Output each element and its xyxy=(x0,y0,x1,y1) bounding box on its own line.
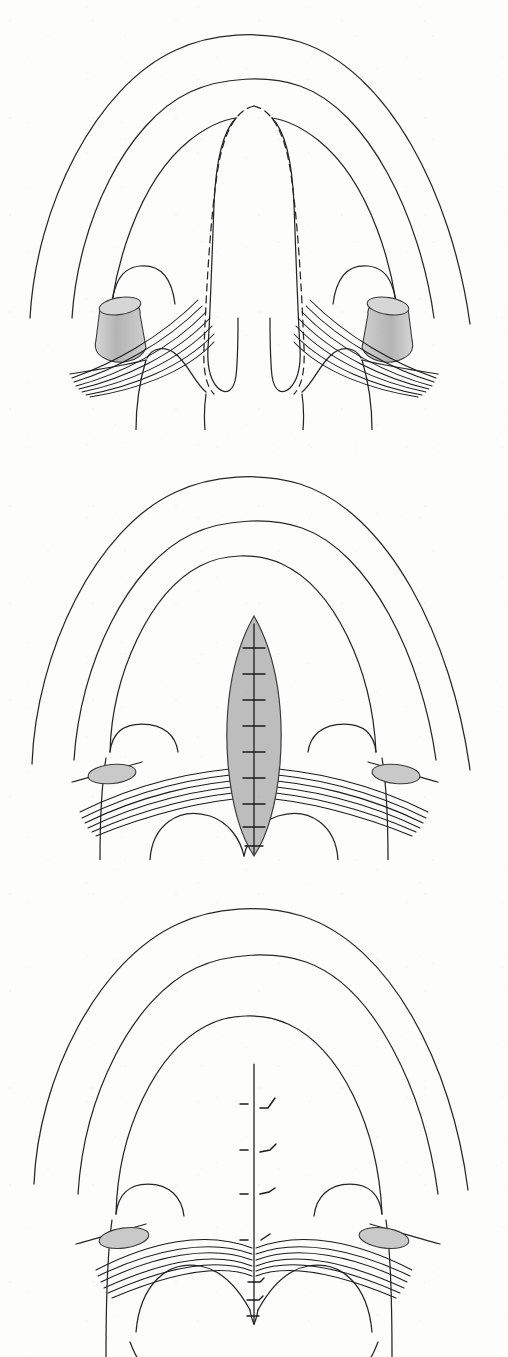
figure-panel-3 xyxy=(0,872,508,1357)
cleft-margin-right xyxy=(270,118,300,392)
running-head xyxy=(0,0,508,11)
knotted-suture-2 xyxy=(240,1144,276,1152)
hamulus-oval-right xyxy=(371,762,421,786)
soft-tissue-fold-right xyxy=(302,394,304,430)
panel-1-drawing xyxy=(0,18,508,430)
cleft-margin-left xyxy=(208,118,238,392)
figure-panel-1 xyxy=(0,18,508,430)
alveolar-ridge-arch xyxy=(78,955,438,1194)
alveolar-ridge-arch xyxy=(72,79,434,318)
velum-outer-left xyxy=(130,1342,137,1357)
hard-palate-lobe-left xyxy=(110,724,178,752)
posterior-border-left xyxy=(70,360,146,374)
knotted-suture-3 xyxy=(240,1188,275,1194)
figure-panel-2 xyxy=(0,452,508,860)
hamulus-right xyxy=(362,294,413,362)
velum-left xyxy=(136,1265,250,1332)
hard-palate-lobe-left xyxy=(116,1184,184,1216)
tonsillar-pillar-left xyxy=(136,360,146,430)
knotted-suture-1 xyxy=(240,1098,275,1108)
hamulus-oval-left xyxy=(98,1225,150,1252)
planned-incision-right xyxy=(254,106,304,394)
velum-right xyxy=(258,1265,372,1332)
tonsillar-pillar-right xyxy=(362,360,372,430)
posterior-border-right xyxy=(362,360,438,374)
soft-tissue-fold-left xyxy=(204,394,206,430)
planned-incision-left xyxy=(204,106,254,394)
hard-palate-lobe-right xyxy=(314,1184,382,1216)
knotted-sutures xyxy=(240,1098,276,1240)
velum-outer-right xyxy=(371,1342,378,1357)
uvula-arch-left xyxy=(150,813,244,860)
hard-palate-lobe-right xyxy=(308,724,376,752)
outer-lip-arch xyxy=(34,909,468,1190)
hamulus-oval-right xyxy=(358,1225,410,1252)
figure-page xyxy=(0,0,508,1357)
knotted-suture-4 xyxy=(240,1234,270,1240)
panel-2-drawing xyxy=(0,452,508,860)
hamulus-left xyxy=(95,294,146,362)
hamulus-oval-left xyxy=(87,762,137,786)
outer-lip-arch xyxy=(30,35,470,324)
panel-3-drawing xyxy=(0,872,508,1357)
